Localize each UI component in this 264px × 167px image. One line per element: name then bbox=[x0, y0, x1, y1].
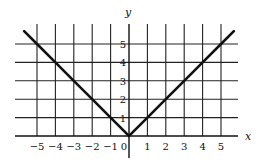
y-tick-label: 1 bbox=[120, 113, 126, 124]
x-tick-label: 2 bbox=[163, 141, 169, 152]
y-tick-label: 2 bbox=[120, 94, 126, 105]
x-tick-label: −1 bbox=[103, 141, 118, 152]
x-tick-label: 4 bbox=[199, 141, 205, 152]
x-tick-label: −4 bbox=[48, 141, 63, 152]
chart: −5−4−3−2−1012345 12345 x y bbox=[0, 0, 264, 167]
y-tick-label: 5 bbox=[120, 39, 126, 50]
x-tick-label: 3 bbox=[181, 141, 187, 152]
y-tick-label: 4 bbox=[120, 57, 126, 68]
x-tick-label: 0 bbox=[121, 141, 127, 152]
x-tick-label: −5 bbox=[30, 141, 45, 152]
x-tick-label: −2 bbox=[85, 141, 100, 152]
y-tick-labels: 12345 bbox=[120, 39, 126, 124]
x-tick-label: 5 bbox=[218, 141, 224, 152]
y-axis-label: y bbox=[124, 6, 132, 19]
x-tick-label: 1 bbox=[144, 141, 150, 152]
x-axis-label: x bbox=[245, 130, 252, 143]
x-tick-label: −3 bbox=[66, 141, 81, 152]
x-tick-labels: −5−4−3−2−1012345 bbox=[30, 141, 225, 152]
y-tick-label: 3 bbox=[120, 76, 126, 87]
